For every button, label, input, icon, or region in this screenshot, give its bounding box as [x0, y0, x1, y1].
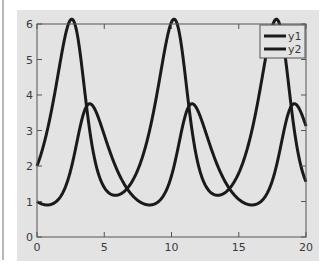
x-tick-label: 10 — [165, 241, 179, 254]
x-tick-label: 20 — [299, 241, 313, 254]
y-tick-label: 3 — [26, 125, 33, 138]
y-tick-label: 2 — [26, 160, 33, 173]
series-y2-line — [37, 104, 306, 205]
y-tick-label: 6 — [26, 18, 33, 31]
x-tick-label: 15 — [232, 241, 246, 254]
legend-label-y2: y2 — [288, 43, 302, 56]
y-tick-label: 5 — [26, 54, 33, 67]
x-tick-label: 5 — [101, 241, 108, 254]
line-chart: 012345605101520 y1 y2 — [0, 0, 333, 271]
legend: y1 y2 — [260, 25, 305, 58]
legend-label-y1: y1 — [288, 30, 302, 43]
y-tick-label: 1 — [26, 196, 33, 209]
x-tick-label: 0 — [34, 241, 41, 254]
y-tick-label: 4 — [26, 89, 33, 102]
y-tick-label: 0 — [26, 231, 33, 244]
